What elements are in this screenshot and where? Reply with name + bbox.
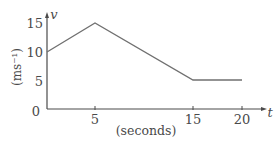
y-tick-label-5: 5: [35, 74, 43, 89]
velocity-line: [47, 23, 242, 80]
velocity-time-graph: 15 10 5 0 5 15 20 (seconds) (ms⁻¹) t v: [0, 0, 278, 142]
v-axis-symbol: v: [50, 7, 58, 22]
y-axis-label: (ms⁻¹): [10, 48, 24, 86]
x-axis-arrow-icon: [261, 107, 267, 111]
y-tick-label-10: 10: [26, 45, 43, 60]
x-tick-label-5: 5: [91, 112, 99, 127]
x-tick-label-20: 20: [234, 112, 251, 127]
x-axis-label: (seconds): [116, 123, 177, 138]
x-tick-label-15: 15: [185, 112, 202, 127]
t-axis-symbol: t: [267, 105, 273, 120]
origin-label: 0: [32, 104, 40, 119]
y-tick-label-15: 15: [26, 16, 43, 31]
y-axis-arrow-icon: [45, 12, 49, 18]
